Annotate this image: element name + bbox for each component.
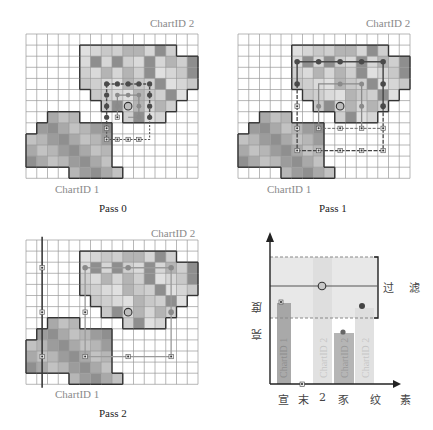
pass-1-grid [238, 34, 410, 178]
diagram-graphics [0, 0, 433, 430]
pass-2-grid [26, 237, 198, 388]
pass-0-grid [26, 34, 198, 178]
brightness-chart [266, 232, 401, 388]
